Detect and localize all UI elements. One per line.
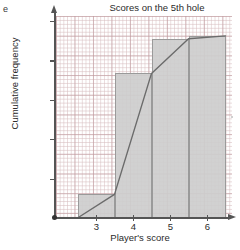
y-tick-400 (50, 60, 56, 61)
y-axis-label: Cumulative frequency (9, 14, 20, 154)
y-axis-arrow-icon (51, 5, 57, 13)
x-axis-arrow-icon (228, 214, 236, 220)
x-tick-label-4: 4 (122, 222, 146, 232)
y-axis-line (54, 12, 56, 219)
bar-score-4 (115, 73, 152, 218)
scan-speck (231, 116, 233, 118)
bar-score-5 (152, 39, 189, 218)
y-tick-500 (50, 21, 56, 22)
x-tick-label-5: 5 (159, 222, 183, 232)
y-tick-100 (50, 179, 56, 180)
x-tick-label-3: 3 (85, 222, 109, 232)
y-tick-200 (50, 139, 56, 140)
chart-title: Scores on the 5th hole (82, 3, 232, 13)
origin-marker (52, 215, 57, 220)
cumulative-frequency-chart: e Scores on the 5th hole 500 400 300 200… (0, 0, 240, 250)
y-tick-300 (50, 100, 56, 101)
x-tick-label-6: 6 (196, 222, 220, 232)
x-axis-line (54, 217, 229, 219)
part-label: e (3, 5, 8, 14)
bar-score-6 (189, 36, 226, 218)
x-axis-label: Player's score (60, 232, 220, 243)
